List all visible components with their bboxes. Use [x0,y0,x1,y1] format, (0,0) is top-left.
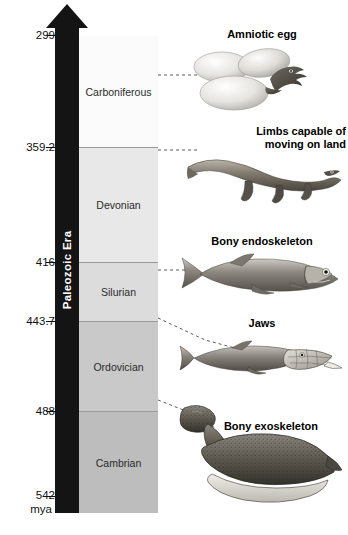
tick-mark [46,411,58,412]
tick-mark [46,262,58,263]
feature-bony-exoskeleton: Bony exoskeleton [178,398,346,508]
axis-tick-542: 542 [3,489,55,501]
tick-mark [46,147,58,148]
feature-jaws: Jaws [178,317,346,390]
period-name: Cambrian [96,457,142,469]
period-band-carboniferous[interactable]: Carboniferous [79,36,158,148]
axis-unit-label: mya [0,503,52,515]
period-name: Carboniferous [86,86,152,98]
bony-fish-illustration [178,248,346,308]
amniotic-egg-illustration [178,41,346,119]
jawed-fish-illustration [178,330,346,390]
feature-amniotic-egg: Amniotic egg [178,28,346,119]
period-name: Silurian [101,286,136,298]
paleozoic-era-bar [55,26,79,513]
period-name: Ordovician [93,361,143,373]
feature-caption: Jaws [178,317,346,330]
timeline-diagram: Paleozoic Era Carboniferous Devonian Sil… [0,0,348,535]
feature-bony-endoskeleton: Bony endoskeleton [178,235,346,308]
period-band-devonian[interactable]: Devonian [79,148,158,263]
feature-caption: Amniotic egg [178,28,346,41]
period-column: Carboniferous Devonian Silurian Ordovici… [79,36,158,513]
axis-ticks: 299 359.2 416 443.7 488 542 mya [0,0,55,535]
period-band-silurian[interactable]: Silurian [79,263,158,322]
tick-mark [46,321,58,322]
period-name: Devonian [96,199,140,211]
tick-mark [46,35,58,36]
tetrapod-illustration [186,145,346,207]
feature-limbs-on-land: Limbs capable of moving on land [186,125,346,207]
period-band-cambrian[interactable]: Cambrian [79,412,158,513]
feature-caption-line1: Limbs capable of [186,125,346,138]
feature-caption: Bony endoskeleton [178,235,346,248]
period-band-ordovician[interactable]: Ordovician [79,322,158,412]
ostracoderm-illustration [178,398,346,508]
tick-mark [46,496,58,497]
